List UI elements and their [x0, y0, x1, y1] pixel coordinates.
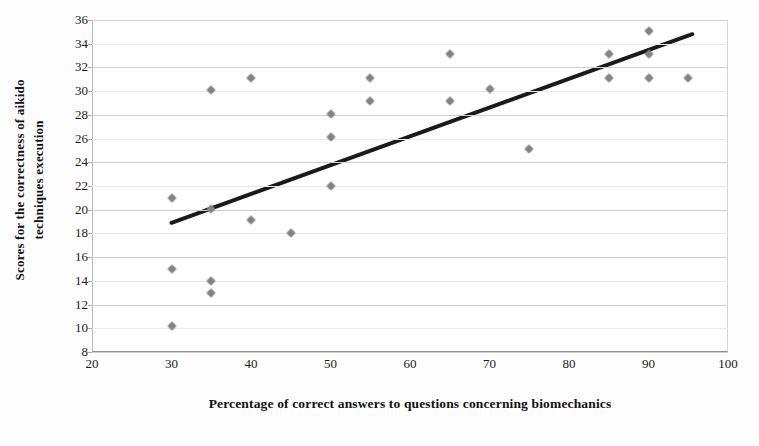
y-tick-mark	[88, 233, 92, 234]
data-point	[326, 109, 334, 117]
y-tick-mark	[88, 20, 92, 21]
data-point	[287, 229, 295, 237]
y-axis-title-line1: Scores for the correctness of aikido	[12, 79, 27, 280]
x-axis-tick-labels: 2030405060708090100	[0, 356, 759, 378]
data-point	[207, 204, 215, 212]
data-point	[446, 50, 454, 58]
y-tick-mark	[88, 305, 92, 306]
gridline	[92, 233, 728, 234]
x-tick-label: 100	[698, 356, 758, 372]
y-tick-mark	[88, 328, 92, 329]
gridline	[92, 210, 728, 211]
gridline	[92, 281, 728, 282]
y-tick-label: 14	[48, 273, 88, 289]
data-point	[644, 50, 652, 58]
plot-area	[92, 20, 728, 352]
data-point	[485, 85, 493, 93]
data-point	[366, 96, 374, 104]
y-tick-label: 28	[48, 107, 88, 123]
x-tick-label: 80	[539, 356, 599, 372]
y-tick-mark	[88, 139, 92, 140]
y-tick-label: 36	[48, 12, 88, 28]
x-axis-title: Percentage of correct answers to questio…	[92, 396, 728, 412]
gridline	[92, 162, 728, 163]
gridline	[92, 186, 728, 187]
y-tick-mark	[88, 67, 92, 68]
data-point	[605, 50, 613, 58]
y-tick-label: 32	[48, 59, 88, 75]
y-tick-label: 10	[48, 320, 88, 336]
data-point	[326, 182, 334, 190]
y-tick-label: 26	[48, 131, 88, 147]
y-tick-label: 18	[48, 225, 88, 241]
x-tick-label: 20	[62, 356, 122, 372]
y-tick-mark	[88, 186, 92, 187]
y-tick-label: 22	[48, 178, 88, 194]
y-tick-mark	[88, 352, 92, 353]
y-tick-mark	[88, 162, 92, 163]
data-point	[167, 265, 175, 273]
gridline	[92, 115, 728, 116]
x-tick-label: 40	[221, 356, 281, 372]
y-axis-tick-labels: 81012141618202224262830323436	[44, 20, 88, 352]
x-tick-label: 50	[301, 356, 361, 372]
y-tick-mark	[88, 44, 92, 45]
gridline	[92, 257, 728, 258]
data-point	[167, 194, 175, 202]
data-point	[207, 288, 215, 296]
x-tick-label: 30	[142, 356, 202, 372]
y-tick-mark	[88, 257, 92, 258]
data-point	[684, 74, 692, 82]
data-point	[446, 96, 454, 104]
data-point	[366, 74, 374, 82]
data-point	[525, 145, 533, 153]
data-point	[207, 277, 215, 285]
data-point	[644, 74, 652, 82]
data-point	[644, 26, 652, 34]
y-tick-label: 24	[48, 154, 88, 170]
gridline	[92, 20, 728, 21]
y-tick-mark	[88, 210, 92, 211]
x-tick-label: 90	[619, 356, 679, 372]
y-tick-label: 12	[48, 297, 88, 313]
x-tick-label: 70	[460, 356, 520, 372]
y-tick-label: 30	[48, 83, 88, 99]
gridline	[92, 91, 728, 92]
data-point	[605, 74, 613, 82]
y-tick-mark	[88, 115, 92, 116]
gridline	[92, 139, 728, 140]
gridline	[92, 328, 728, 329]
gridline	[92, 44, 728, 45]
gridline	[92, 352, 728, 353]
gridline	[92, 67, 728, 68]
data-point	[207, 86, 215, 94]
y-tick-mark	[88, 91, 92, 92]
gridline	[92, 305, 728, 306]
data-point	[167, 322, 175, 330]
data-point	[247, 216, 255, 224]
y-tick-label: 34	[48, 36, 88, 52]
y-tick-mark	[88, 281, 92, 282]
chart-page: Scores for the correctness of aikido tec…	[0, 0, 759, 446]
data-point	[326, 133, 334, 141]
y-tick-label: 16	[48, 249, 88, 265]
y-tick-label: 20	[48, 202, 88, 218]
x-tick-label: 60	[380, 356, 440, 372]
data-point	[247, 74, 255, 82]
